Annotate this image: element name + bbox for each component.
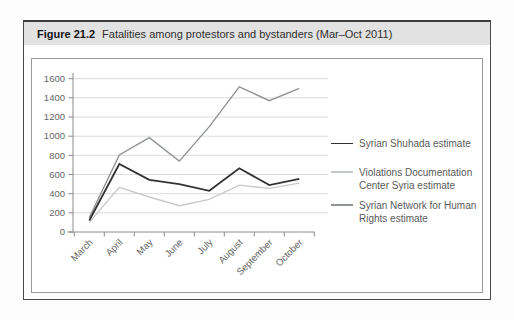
- x-tick-label: April: [103, 237, 124, 258]
- legend-swatch-vdc-syria: [331, 171, 353, 173]
- x-tick-label: October: [273, 237, 305, 269]
- y-tick-label: 1400: [44, 92, 65, 103]
- x-tick-label: July: [195, 236, 215, 256]
- figure-titlebar: Figure 21.2 Fatalities among protestors …: [24, 22, 490, 45]
- figure-title: Fatalities among protestors and bystande…: [102, 28, 392, 40]
- chart-frame: 02004006008001000120014001600MarchAprilM…: [31, 58, 483, 293]
- series-line-0: [89, 164, 299, 221]
- series-line-1: [89, 183, 299, 222]
- y-tick-label: 800: [49, 150, 65, 161]
- x-tick-label: June: [162, 237, 184, 259]
- legend-item-syrian-shuhada: Syrian Shuhada estimate: [331, 137, 481, 151]
- x-tick-label: August: [216, 236, 245, 265]
- y-tick-label: 1000: [44, 130, 65, 141]
- legend-label: Violations Documentation Center Syria es…: [359, 166, 477, 193]
- x-tick-label: May: [134, 236, 155, 257]
- figure-box: Figure 21.2 Fatalities among protestors …: [23, 20, 491, 300]
- y-tick-label: 0: [60, 226, 65, 237]
- y-tick-label: 400: [49, 188, 65, 199]
- legend-label: Syrian Shuhada estimate: [359, 137, 471, 151]
- y-tick-label: 1600: [44, 73, 65, 84]
- y-tick-label: 1200: [44, 111, 65, 122]
- x-tick-label: March: [68, 237, 94, 263]
- legend-swatch-syrian-shuhada: [331, 143, 353, 145]
- chart-legend: Syrian Shuhada estimate Violations Docum…: [331, 137, 481, 226]
- legend-item-vdc-syria: Violations Documentation Center Syria es…: [331, 166, 481, 193]
- series-line-2: [89, 87, 299, 218]
- legend-swatch-snhr: [331, 204, 353, 206]
- y-tick-label: 200: [49, 207, 65, 218]
- legend-label: Syrian Network for Human Rights estimate: [359, 199, 477, 226]
- y-tick-label: 600: [49, 169, 65, 180]
- legend-item-snhr: Syrian Network for Human Rights estimate: [331, 199, 481, 226]
- figure-label: Figure 21.2: [37, 28, 95, 40]
